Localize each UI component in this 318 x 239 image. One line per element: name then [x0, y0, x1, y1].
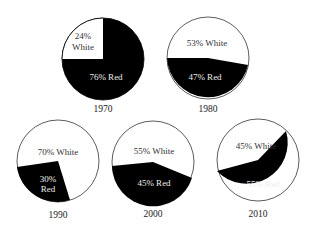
- label-white-2000: 55% White: [134, 146, 175, 156]
- label-red-2010: 55% Red: [246, 179, 280, 189]
- pie-1970: 24% White 76% Red 1970: [62, 18, 144, 114]
- label-white-word-1970: White: [72, 42, 94, 52]
- pie-1990: 70% White 30% Red 1990: [17, 120, 99, 220]
- year-label-2010: 2010: [249, 209, 268, 219]
- label-red-2000: 45% Red: [137, 178, 171, 188]
- pie-1980: 53% White 47% Red 1980: [167, 17, 249, 114]
- year-label-2000: 2000: [144, 209, 163, 219]
- label-white-2010: 45% White: [236, 141, 277, 151]
- pie-2010: 45% White 55% Red 2010: [217, 119, 299, 219]
- label-white-1980: 53% White: [187, 38, 228, 48]
- label-red-word-1990: Red: [41, 184, 56, 194]
- label-white-1990: 70% White: [38, 147, 79, 157]
- label-white-pct-1970: 24%: [75, 31, 92, 41]
- year-label-1980: 1980: [199, 104, 218, 114]
- label-red-1970: 76% Red: [89, 72, 123, 82]
- label-red-pct-1990: 30%: [40, 174, 57, 184]
- label-red-1980: 47% Red: [188, 72, 222, 82]
- year-label-1990: 1990: [49, 210, 68, 220]
- year-label-1970: 1970: [94, 104, 113, 114]
- pie-chart-grid: 24% White 76% Red 1970 53% White 47% Red…: [0, 0, 318, 239]
- pie-2000: 55% White 45% Red 2000: [112, 121, 194, 219]
